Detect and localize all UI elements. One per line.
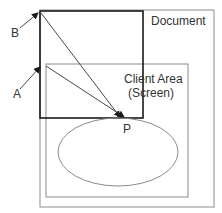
label-document: Document [151,14,206,28]
ellipse-shape [58,118,178,186]
label-point-b: B [11,26,19,40]
vector-b-to-p [41,13,120,117]
vector-a-to-p [46,66,124,117]
pointer-arrow-a [20,67,40,89]
label-screen: (Screen) [128,86,174,100]
document-client-area-diagram: Document Client Area (Screen) B A P [0,0,222,213]
label-point-a: A [13,87,21,101]
label-client-area: Client Area [124,72,183,86]
label-point-p: P [123,122,131,136]
pointer-arrow-b [20,13,38,28]
